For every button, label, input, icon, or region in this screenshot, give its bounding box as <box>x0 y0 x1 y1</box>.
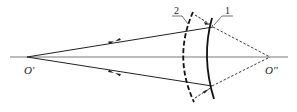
surface-1-label: 1 <box>225 5 230 16</box>
right-focus-label: O'' <box>265 64 278 76</box>
left-focus-label: O' <box>24 64 35 76</box>
optics-diagram: 2 1 O' O'' <box>0 0 297 112</box>
dashed-ray-top <box>213 27 270 57</box>
surface-1 <box>207 18 214 99</box>
connector-bottom <box>195 87 212 98</box>
dashed-ray-bottom <box>212 57 270 86</box>
connector-top <box>195 15 213 26</box>
arrow-left-icon <box>115 73 121 76</box>
arrow-right-icon <box>203 89 209 94</box>
surface-2-label: 2 <box>174 5 179 16</box>
leader-1 <box>214 16 233 25</box>
leader-2 <box>172 16 188 24</box>
arrow-left-icon <box>115 38 121 41</box>
